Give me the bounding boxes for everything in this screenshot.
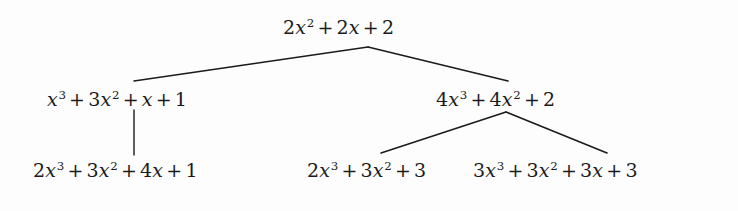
- operator-plus: +: [606, 159, 622, 181]
- root-term-1-coefficient: 2: [337, 16, 349, 38]
- tree-node-root: 2x2+2x+2: [283, 18, 394, 37]
- leaf2-term-1-coefficient: 3: [361, 159, 373, 181]
- leaf3-term-1-coefficient: 3: [527, 159, 539, 181]
- leaf1-term-2-variable: x: [152, 159, 163, 181]
- edge-right-to-leaf-3: [506, 112, 607, 153]
- root-term-0-exponent: 2: [307, 16, 315, 30]
- edge-root-to-left: [134, 47, 368, 81]
- root-term-0-coefficient: 2: [283, 16, 295, 38]
- operator-plus: +: [317, 16, 333, 38]
- left-term-0-variable: x: [47, 88, 58, 110]
- leaf3-term-1-variable: x: [539, 159, 550, 181]
- edge-right-to-leaf-2: [381, 112, 506, 153]
- tree-node-left-child: x3+3x2+x+1: [47, 90, 187, 109]
- operator-plus: +: [395, 159, 411, 181]
- leaf3-term-3-coefficient: 3: [625, 159, 637, 181]
- operator-plus: +: [341, 159, 357, 181]
- expression-tree-figure: 2x2+2x+2 x3+3x2+x+1 4x3+4x2+2 2x3+3x2+4x…: [0, 0, 738, 211]
- leaf3-term-0-coefficient: 3: [473, 159, 485, 181]
- operator-plus: +: [69, 88, 85, 110]
- operator-plus: +: [470, 88, 486, 110]
- left-term-1-coefficient: 3: [88, 88, 100, 110]
- leaf1-term-0-exponent: 3: [57, 159, 65, 173]
- leaf3-term-2-coefficient: 3: [580, 159, 592, 181]
- operator-plus: +: [561, 159, 577, 181]
- right-term-1-coefficient: 4: [490, 88, 502, 110]
- tree-node-leaf-3: 3x3+3x2+3x+3: [473, 161, 638, 180]
- leaf3-term-1-exponent: 2: [550, 159, 558, 173]
- leaf2-term-0-exponent: 3: [331, 159, 339, 173]
- operator-plus: +: [156, 88, 172, 110]
- left-term-1-variable: x: [101, 88, 112, 110]
- right-term-1-exponent: 2: [513, 88, 521, 102]
- left-term-0-exponent: 3: [58, 88, 66, 102]
- leaf1-term-0-coefficient: 2: [33, 159, 45, 181]
- right-term-2-coefficient: 2: [543, 88, 555, 110]
- right-term-1-variable: x: [502, 88, 513, 110]
- right-term-0-exponent: 3: [460, 88, 468, 102]
- leaf1-term-1-exponent: 2: [110, 159, 118, 173]
- root-term-0-variable: x: [295, 16, 306, 38]
- leaf3-term-0-variable: x: [485, 159, 496, 181]
- operator-plus: +: [507, 159, 523, 181]
- leaf3-term-0-exponent: 3: [497, 159, 505, 173]
- operator-plus: +: [524, 88, 540, 110]
- left-term-1-exponent: 2: [112, 88, 120, 102]
- right-term-0-variable: x: [448, 88, 459, 110]
- leaf2-term-1-exponent: 2: [384, 159, 392, 173]
- leaf1-term-0-variable: x: [45, 159, 56, 181]
- leaf1-term-2-coefficient: 4: [140, 159, 152, 181]
- leaf2-term-1-variable: x: [373, 159, 384, 181]
- leaf2-term-0-coefficient: 2: [307, 159, 319, 181]
- root-term-1-variable: x: [349, 16, 360, 38]
- root-term-2-coefficient: 2: [382, 16, 394, 38]
- leaf3-term-2-variable: x: [592, 159, 603, 181]
- operator-plus: +: [121, 159, 137, 181]
- edge-root-to-right: [368, 47, 508, 81]
- operator-plus: +: [67, 159, 83, 181]
- leaf1-term-3-coefficient: 1: [185, 159, 197, 181]
- leaf1-term-1-variable: x: [99, 159, 110, 181]
- leaf2-term-0-variable: x: [319, 159, 330, 181]
- leaf2-term-2-coefficient: 3: [414, 159, 426, 181]
- tree-node-leaf-2: 2x3+3x2+3: [307, 161, 426, 180]
- left-term-2-variable: x: [142, 88, 153, 110]
- operator-plus: +: [166, 159, 182, 181]
- tree-node-right-child: 4x3+4x2+2: [436, 90, 555, 109]
- leaf1-term-1-coefficient: 3: [87, 159, 99, 181]
- tree-node-leaf-1: 2x3+3x2+4x+1: [33, 161, 198, 180]
- operator-plus: +: [123, 88, 139, 110]
- left-term-3-coefficient: 1: [175, 88, 187, 110]
- right-term-0-coefficient: 4: [436, 88, 448, 110]
- operator-plus: +: [363, 16, 379, 38]
